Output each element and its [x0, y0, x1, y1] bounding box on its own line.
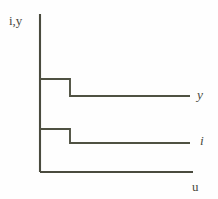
step-response-figure: i,y u y i	[0, 0, 218, 199]
curve-i-label: i	[200, 134, 204, 148]
y-axis-label: i,y	[9, 14, 22, 27]
x-axis-label: u	[192, 180, 199, 193]
curve-y-label: y	[197, 88, 204, 102]
curve-i-step-line	[40, 129, 190, 143]
figure-canvas	[0, 0, 218, 199]
curve-y-step-line	[40, 79, 190, 96]
